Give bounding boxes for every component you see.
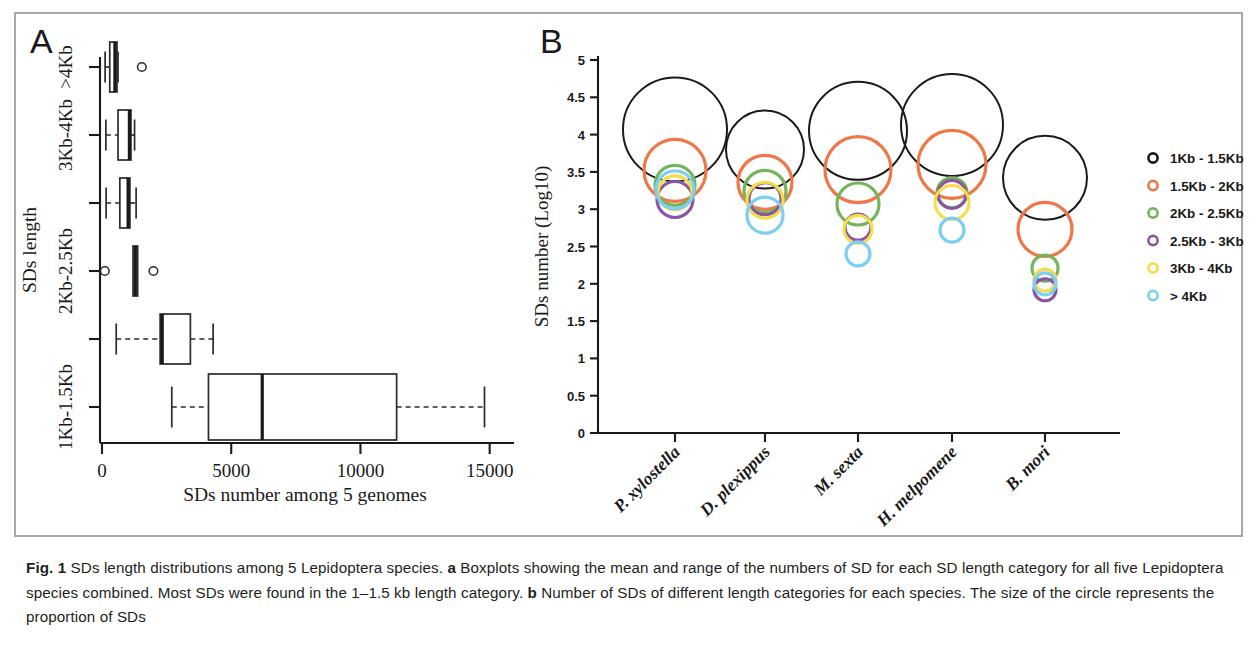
legend-item-label: 1Kb - 1.5Kb bbox=[1170, 151, 1244, 166]
panel-b-bubble-chart: 00.511.522.533.544.55SDs number (Log10)P… bbox=[520, 12, 1250, 537]
panel-a-outlier-point bbox=[149, 267, 158, 276]
panel-b-ytick-label: 0 bbox=[578, 426, 585, 441]
legend-ring-icon bbox=[1148, 236, 1157, 245]
panel-b-legend-item: 1Kb - 1.5Kb bbox=[1148, 151, 1243, 166]
panel-b-ytick-label: 3 bbox=[578, 202, 585, 217]
panel-b-bubble bbox=[918, 130, 986, 198]
panel-b-species-label: P. xylostella bbox=[609, 442, 684, 517]
panel-b-ytick-label: 0.5 bbox=[567, 389, 585, 404]
panel-a-outlier-point bbox=[138, 63, 147, 72]
legend-item-label: 2.5Kb - 3Kb bbox=[1170, 234, 1244, 249]
panel-a-ytick-label: 1Kb-1.5Kb bbox=[55, 364, 76, 450]
legend-ring-icon bbox=[1148, 291, 1157, 300]
panel-a-ytick-label: 2Kb-2.5Kb bbox=[55, 228, 76, 314]
caption-bold-a: a bbox=[447, 559, 456, 576]
panel-a-boxplot-chart: 050001000015000SDs number among 5 genome… bbox=[14, 12, 526, 532]
panel-b-legend-item: 1.5Kb - 2Kb bbox=[1148, 179, 1243, 194]
panel-b-ytick-label: 2.5 bbox=[567, 240, 585, 255]
panel-a-y-axis-title: SDs length bbox=[19, 207, 40, 293]
panel-b-ytick-label: 5 bbox=[578, 53, 585, 68]
panel-b-legend-item: 3Kb - 4Kb bbox=[1148, 261, 1232, 276]
panel-b-ytick-label: 2 bbox=[578, 277, 585, 292]
legend-item-label: > 4Kb bbox=[1170, 289, 1207, 304]
panel-b-bubble bbox=[1018, 202, 1072, 256]
legend-ring-icon bbox=[1148, 263, 1157, 272]
legend-ring-icon bbox=[1148, 181, 1157, 190]
caption-fig-label: Fig. 1 bbox=[26, 559, 66, 576]
figure-caption: Fig. 1 SDs length distributions among 5 … bbox=[26, 556, 1241, 630]
panel-a-x-axis-title: SDs number among 5 genomes bbox=[183, 484, 427, 505]
panel-a-ytick-label: 3Kb-4Kb bbox=[55, 99, 76, 171]
panel-a-boxplot-box bbox=[116, 314, 213, 364]
panel-b-species-label: H. melpomene bbox=[872, 442, 961, 531]
panel-b-species-label: B. mori bbox=[1000, 442, 1053, 495]
panel-a-xtick-label: 10000 bbox=[337, 460, 385, 481]
panel-b-ytick-label: 4 bbox=[578, 128, 586, 143]
caption-bold-b: b bbox=[528, 584, 537, 601]
legend-ring-icon bbox=[1148, 208, 1157, 217]
panel-a-ytick-label: >4Kb bbox=[55, 45, 76, 88]
panel-b-bubble bbox=[1003, 136, 1087, 220]
panel-b-ytick-label: 4.5 bbox=[567, 90, 585, 105]
panel-b-legend-item: 2Kb - 2.5Kb bbox=[1148, 206, 1243, 221]
legend-item-label: 1.5Kb - 2Kb bbox=[1170, 179, 1244, 194]
legend-ring-icon bbox=[1148, 153, 1157, 162]
panel-a-xtick-label: 0 bbox=[97, 460, 107, 481]
panel-b-ytick-label: 1.5 bbox=[567, 314, 585, 329]
figure-root: A B 050001000015000SDs number among 5 ge… bbox=[0, 0, 1257, 657]
caption-text-1: SDs length distributions among 5 Lepidop… bbox=[66, 559, 447, 576]
panel-a-boxplot-box bbox=[106, 178, 136, 228]
legend-item-label: 3Kb - 4Kb bbox=[1170, 261, 1233, 276]
panel-a-xtick-label: 15000 bbox=[466, 460, 514, 481]
panel-a-boxplot-box bbox=[101, 246, 158, 296]
panel-b-legend-item: 2.5Kb - 3Kb bbox=[1148, 234, 1243, 249]
panel-b-ytick-label: 1 bbox=[578, 351, 585, 366]
panel-a-xtick-label: 5000 bbox=[212, 460, 250, 481]
panel-b-bubble bbox=[901, 74, 1003, 176]
legend-item-label: 2Kb - 2.5Kb bbox=[1170, 206, 1244, 221]
panel-b-bubble bbox=[846, 242, 870, 266]
panel-a-boxplot-box bbox=[105, 42, 146, 92]
panel-b-ytick-label: 3.5 bbox=[567, 165, 585, 180]
panel-b-species-label: D. plexippus bbox=[695, 442, 774, 521]
panel-b-bubble bbox=[940, 218, 964, 242]
panel-a-outlier-point bbox=[101, 267, 110, 276]
panel-b-bubble bbox=[825, 137, 891, 203]
panel-b-legend-item: > 4Kb bbox=[1148, 289, 1206, 304]
panel-b-y-axis-title: SDs number (Log10) bbox=[531, 166, 553, 327]
panel-a-boxplot-box bbox=[106, 110, 135, 160]
panel-a-boxplot-box bbox=[172, 374, 485, 440]
panel-b-species-label: M. sexta bbox=[809, 442, 867, 500]
